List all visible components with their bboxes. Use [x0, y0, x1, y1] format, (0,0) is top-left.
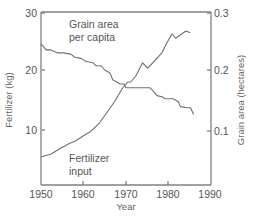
- chart: 30 20 10 0.3 0.2 0.1 1950 1960 1970 1980…: [0, 0, 255, 218]
- right-ticks: 0.3 0.2 0.1: [207, 7, 229, 137]
- x-tick-1990: 1990: [198, 188, 222, 200]
- left-ticks: 30 20 10: [25, 7, 45, 136]
- x-tick-1980: 1980: [156, 188, 180, 200]
- annotation-grain-area-line2: per capita: [69, 31, 115, 43]
- fertilizer-line: [41, 31, 190, 157]
- x-axis-label: Year: [116, 201, 135, 212]
- grain-area-line: [41, 44, 194, 115]
- y2-tick-0.3: 0.3: [214, 7, 229, 19]
- x-tick-1970: 1970: [114, 188, 138, 200]
- x-ticks: 1950 1960 1970 1980 1990: [29, 181, 222, 200]
- y-axis-label: Fertilizer (kg): [3, 72, 14, 127]
- y2-axis-label: Grain area (hectares): [235, 55, 246, 145]
- annotation-grain-area: Grain area: [69, 18, 119, 30]
- x-tick-1960: 1960: [71, 188, 95, 200]
- y2-tick-0.2: 0.2: [214, 64, 229, 76]
- x-tick-1950: 1950: [29, 188, 53, 200]
- annotation-fertilizer: Fertilizer: [69, 152, 110, 164]
- y-tick-10: 10: [25, 124, 37, 136]
- y-tick-30: 30: [25, 7, 37, 19]
- y2-tick-0.1: 0.1: [214, 125, 229, 137]
- y-tick-20: 20: [25, 64, 37, 76]
- annotation-fertilizer-line2: input: [69, 165, 92, 177]
